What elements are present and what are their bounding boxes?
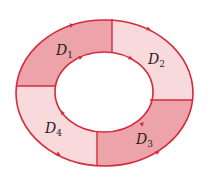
region-d2-fill <box>112 0 209 100</box>
annulus-diagram: D1 D2 D3 D4 <box>0 0 209 177</box>
inner-boundary <box>55 52 153 132</box>
